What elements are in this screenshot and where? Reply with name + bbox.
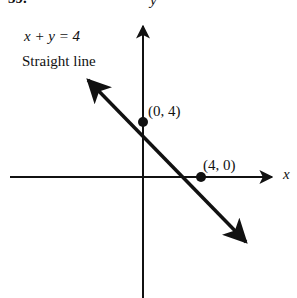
equation-label: x + y = 4	[24, 28, 80, 45]
y-axis-label: y	[150, 0, 157, 9]
point-label-0-4: (0, 4)	[148, 103, 181, 120]
problem-number: 39.	[8, 0, 27, 7]
point-0-4	[138, 117, 148, 127]
description-label: Straight line	[22, 53, 96, 70]
graph-figure: 39. y x + y = 4 Straight line (0, 4) (4,…	[0, 0, 297, 298]
x-axis-label: x	[283, 166, 290, 183]
point-label-4-0: (4, 0)	[203, 157, 236, 174]
